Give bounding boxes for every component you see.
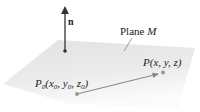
plane-m bbox=[3, 40, 195, 108]
point-p-label: P(x, y, z) bbox=[143, 57, 181, 68]
point-p0-label: P0(x0, y0, z0) bbox=[35, 78, 88, 91]
p0-close: ) bbox=[84, 77, 88, 89]
p0-letter: P bbox=[35, 77, 42, 89]
normal-base-point bbox=[63, 49, 67, 53]
normal-vector-label: n bbox=[68, 17, 74, 27]
point-p0 bbox=[75, 92, 79, 96]
plane-label-var: M bbox=[147, 25, 156, 37]
plane-label-text: Plane bbox=[120, 25, 147, 37]
plane-label: Plane M bbox=[120, 26, 156, 37]
point-p bbox=[161, 71, 165, 75]
